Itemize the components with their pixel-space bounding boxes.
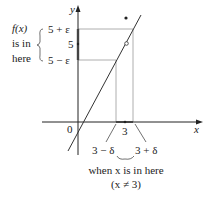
- origin-label: 0: [67, 123, 73, 135]
- annotation-is-in: is in: [12, 37, 31, 49]
- y-label-5-minus-epsilon: 5 − ε: [48, 54, 70, 66]
- f-of-3-point: [124, 16, 127, 19]
- y-tick-5-dot: [77, 43, 79, 45]
- x-label-3: 3: [122, 125, 128, 137]
- pointer-left-delta: [106, 124, 116, 142]
- annotation-here: here: [12, 52, 31, 64]
- x-axis-label: x: [193, 123, 199, 135]
- x-tick-3-dot: [124, 121, 127, 124]
- x-label-3-minus-delta: 3 − δ: [92, 144, 114, 156]
- annotation-x-not-3: (x ≠ 3): [111, 178, 141, 191]
- pointer-right-delta: [135, 124, 146, 142]
- y-label-5: 5: [68, 38, 74, 50]
- open-circle-hole: [125, 42, 129, 46]
- left-brace: [37, 29, 43, 61]
- annotation-when-x-in-here: when x is in here: [88, 164, 163, 176]
- epsilon-delta-diagram: y x 0 5 + ε 5 5 − ε 3 3 − δ 3 + δ f(x) i…: [0, 0, 212, 198]
- y-label-5-plus-epsilon: 5 + ε: [48, 23, 70, 35]
- y-axis-label: y: [69, 3, 75, 15]
- annotation-fx: f(x): [12, 22, 28, 35]
- bottom-brace: [117, 156, 134, 159]
- y-axis-arrow: [76, 5, 81, 12]
- x-label-3-plus-delta: 3 + δ: [135, 144, 157, 156]
